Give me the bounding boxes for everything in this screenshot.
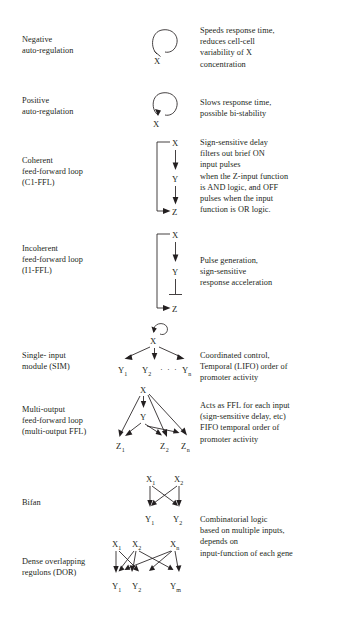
activation-arrow-head [152, 353, 158, 360]
edge-x1-to-y2 [152, 486, 175, 503]
activation-arrow-head [173, 428, 180, 433]
node-label-z: Z [172, 207, 177, 217]
activation-arrow-head [113, 566, 118, 573]
node-label-x2-subscript: 2 [180, 480, 183, 486]
node-label-y2-subscript: 2 [148, 371, 151, 377]
motif-function-text: Speeds response time, reduces cell-cell … [200, 25, 336, 70]
node-label-y2-subscript: 2 [179, 520, 182, 526]
node-label-y: Y [172, 267, 178, 277]
node-label-x: X [140, 385, 147, 395]
node-label-zn: Z [181, 441, 186, 451]
motif-name: Incoherent feed-forward loop (I1-FFL) [22, 243, 142, 277]
motif-name: Coherent feed-forward loop (C1-FFL) [22, 155, 142, 189]
node-label-yn-subscript: n [188, 371, 191, 377]
edge-x2-to-y1 [121, 551, 134, 568]
motif-diagram-bifan: X 1 X 2 Y 1 Y 2 [136, 472, 206, 528]
node-label-y2-subscript: 2 [138, 587, 141, 593]
node-label-y: Y [140, 412, 146, 422]
motif-function-text: Slows response time, possible bi-stabili… [200, 97, 336, 119]
node-label-z2-subscript: 2 [166, 447, 169, 453]
edge-x-to-z-bypass [157, 142, 170, 211]
node-label-y: Y [172, 174, 178, 184]
node-label-z1: Z [116, 441, 121, 451]
node-label-x1-subscript: 1 [152, 480, 155, 486]
motif-function-text: Sign-sensitive delay filters out brief O… [200, 137, 336, 215]
activation-arrow-head [119, 565, 125, 571]
activation-arrow-head [173, 255, 179, 263]
activation-arrow-head [176, 500, 181, 507]
motif-function-text: Coordinated control, Temporal (LIFO) ord… [200, 350, 336, 384]
node-label-x: X [172, 138, 179, 148]
activation-arrow-head [173, 163, 179, 171]
motif-name: Positive auto-regulation [22, 95, 142, 117]
activation-arrow-head [147, 500, 152, 507]
activation-arrow-head [176, 565, 182, 572]
node-label-x1-subscript: 1 [118, 545, 121, 551]
node-label-x: X [153, 119, 160, 129]
node-label-y1-subscript: 1 [151, 520, 154, 526]
motif-diagram-negative-auto-regulation: X [148, 22, 204, 66]
node-label-z1-subscript: 1 [122, 447, 125, 453]
motif-function-text: Pulse generation, sign-sensitive respons… [200, 255, 336, 289]
motif-diagram-dense-overlapping-regulons: X 1 X 2 X n [108, 536, 204, 598]
node-label-x: X [172, 230, 179, 240]
node-label-x2-subscript: 2 [138, 545, 141, 551]
node-label-zn-subscript: n [187, 447, 190, 453]
activation-arrow-head [156, 429, 162, 435]
motif-function-text: Combinatorial logic based on multiple in… [200, 514, 336, 559]
motif-name: Bifan [22, 497, 142, 508]
edge-x-to-zn [149, 394, 184, 432]
node-label-y1-subscript: 1 [124, 371, 127, 377]
activation-arrow-head [141, 401, 146, 408]
motif-function-text: Acts as FFL for each input (sign-sensiti… [200, 400, 336, 445]
node-label-z2: Z [160, 441, 165, 451]
edge-y-to-zn [147, 426, 176, 432]
activation-arrow-head [177, 354, 185, 360]
motif-name: Negative auto-regulation [22, 34, 142, 56]
ellipsis-label: · · · [160, 364, 178, 374]
motif-diagram-positive-auto-regulation: X [148, 85, 204, 129]
node-label-xn-subscript: n [176, 545, 179, 551]
node-label-x: X [154, 56, 161, 66]
activation-arrow-head [163, 208, 171, 214]
edge-x-to-z-bypass [157, 234, 170, 308]
node-label-x: X [150, 336, 157, 346]
edge-x2-to-y1 [154, 486, 177, 503]
edge-x-to-z1 [121, 396, 140, 433]
activation-arrow-head [125, 354, 133, 360]
edge-xn-to-ym [175, 551, 178, 568]
node-label-ym-subscript: m [176, 587, 181, 593]
activation-arrow-head [173, 197, 179, 205]
self-loop-arc [153, 30, 178, 54]
motif-diagram-single-input-module: X Y 1 Y 2 · · · Y n [112, 320, 204, 378]
network-motifs-figure: Negative auto-regulation X Speeds respon… [0, 0, 338, 625]
motif-diagram-multi-output-ffl: X Y [112, 383, 204, 453]
node-label-z: Z [172, 304, 177, 314]
activation-arrow-head [163, 305, 171, 311]
node-label-y1-subscript: 1 [118, 587, 121, 593]
